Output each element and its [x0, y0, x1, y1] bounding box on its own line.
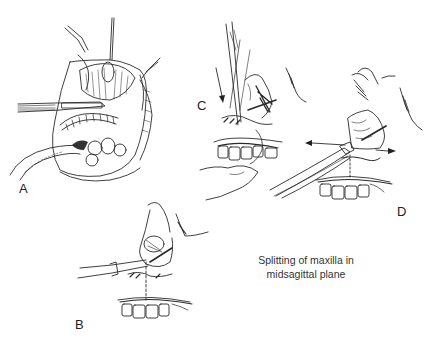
panel-b-drawing	[78, 203, 208, 319]
figure-caption: Splitting of maxilla in midsagittal plan…	[246, 253, 366, 281]
panel-label-a: A	[19, 182, 28, 195]
panel-d-drawing	[270, 68, 422, 199]
panel-a-drawing	[10, 18, 160, 181]
panel-label-c: C	[197, 99, 206, 112]
panel-label-d: D	[397, 205, 406, 218]
caption-line-2: midsagittal plane	[246, 267, 366, 281]
panel-label-b: B	[75, 318, 84, 331]
panel-c-drawing	[200, 22, 306, 200]
surgical-illustration	[0, 0, 437, 348]
caption-line-1: Splitting of maxilla in	[246, 253, 366, 267]
